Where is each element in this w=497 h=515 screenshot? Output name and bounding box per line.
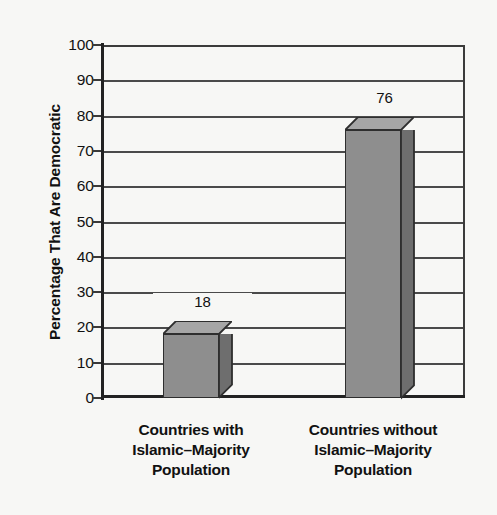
x-category-line: Population bbox=[96, 460, 286, 480]
y-tick-label: 20 bbox=[34, 318, 94, 336]
bar-side-face bbox=[219, 334, 234, 413]
y-tick-label: 50 bbox=[34, 213, 94, 231]
gridline bbox=[103, 80, 465, 82]
bar-1 bbox=[163, 321, 219, 398]
y-tick-label: 90 bbox=[34, 71, 94, 89]
x-category-line: Countries without bbox=[278, 420, 468, 440]
y-tick-label: 100 bbox=[34, 36, 94, 54]
x-category-line: Population bbox=[278, 460, 468, 480]
y-tick-label: 70 bbox=[34, 142, 94, 160]
bar-value-label: 76 bbox=[335, 89, 434, 106]
bar-front-face bbox=[345, 130, 401, 398]
bar-side-face bbox=[401, 130, 416, 413]
y-tick-label: 30 bbox=[34, 283, 94, 301]
bar-chart: Percentage That Are Democratic 100908070… bbox=[0, 0, 497, 515]
bar-value-label: 18 bbox=[153, 293, 252, 310]
x-category-label-2: Countries withoutIslamic–MajorityPopulat… bbox=[278, 420, 468, 480]
bar-2 bbox=[345, 117, 401, 398]
y-tick-label: 40 bbox=[34, 248, 94, 266]
y-tick-label: 60 bbox=[34, 177, 94, 195]
y-tick-label: 0 bbox=[34, 389, 94, 407]
bar-front-face bbox=[163, 334, 219, 398]
x-category-line: Countries with bbox=[96, 420, 286, 440]
x-category-line: Islamic–Majority bbox=[96, 440, 286, 460]
plot-border-top bbox=[103, 45, 465, 47]
y-tick-label: 10 bbox=[34, 354, 94, 372]
bar-top-outline bbox=[345, 117, 414, 131]
y-tick-label: 80 bbox=[34, 107, 94, 125]
x-category-line: Islamic–Majority bbox=[278, 440, 468, 460]
x-category-label-1: Countries withIslamic–MajorityPopulation bbox=[96, 420, 286, 480]
plot-border-right bbox=[463, 45, 465, 398]
bar-top-outline bbox=[163, 321, 232, 335]
y-axis-line bbox=[101, 43, 104, 400]
